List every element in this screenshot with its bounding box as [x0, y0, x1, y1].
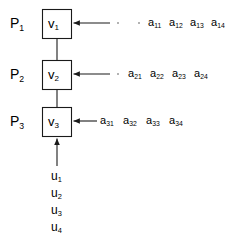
input-term-a31: a31 — [100, 115, 114, 126]
bottom-input-term-u3: u3 — [51, 204, 62, 216]
period-label-3: P3 — [10, 114, 24, 128]
block-label-v2: v2 — [48, 68, 59, 81]
input-term-a12: a12 — [169, 17, 183, 28]
input-term-a13: a13 — [190, 17, 204, 28]
input-term-a33: a33 — [146, 115, 160, 126]
input-term-a32: a32 — [123, 115, 137, 126]
block-label-v3: v3 — [48, 115, 59, 128]
block-label-v1: v1 — [48, 17, 59, 30]
diagram-canvas: P1 P2 P3 v1 v2 v3 a11 a12 a13 a14 a21 a2… — [0, 0, 235, 237]
input-term-a34: a34 — [169, 115, 183, 126]
diagram-graphics — [0, 0, 235, 237]
input-term-a24: a24 — [194, 68, 208, 79]
leader-dot-row2-a — [117, 73, 119, 75]
period-label-1: P1 — [10, 16, 24, 30]
bottom-input-term-u4: u4 — [51, 221, 62, 233]
input-term-a11: a11 — [148, 17, 161, 28]
input-term-a21: a21 — [128, 68, 142, 79]
input-term-a23: a23 — [172, 68, 186, 79]
leader-dot-row1-a — [117, 22, 119, 24]
leader-dot-row1-b — [138, 22, 140, 24]
input-term-a14: a14 — [211, 17, 225, 28]
input-term-a22: a22 — [150, 68, 164, 79]
bottom-input-term-u1: u1 — [51, 170, 62, 182]
bottom-input-term-u2: u2 — [51, 187, 62, 199]
period-label-2: P2 — [10, 67, 24, 81]
